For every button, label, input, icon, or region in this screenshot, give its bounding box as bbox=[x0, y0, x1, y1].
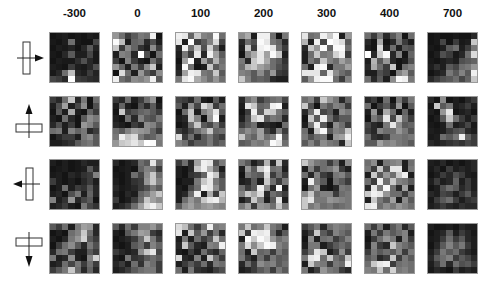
heatmap-row1-col-100 bbox=[176, 33, 225, 82]
heatmap-cell bbox=[156, 76, 162, 82]
heatmap-cell bbox=[408, 140, 414, 146]
heatmap-cell bbox=[345, 267, 351, 273]
heatmap-row2-col-400 bbox=[365, 97, 414, 146]
heatmap-cell bbox=[282, 203, 288, 209]
heatmap-cell bbox=[219, 140, 225, 146]
heatmap-cell bbox=[219, 76, 225, 82]
heatmap-cell bbox=[471, 76, 477, 82]
heatmap-row2-col-700 bbox=[428, 97, 477, 146]
heatmap-row4-col-400 bbox=[365, 224, 414, 273]
bar-arrow-down-icon bbox=[14, 229, 44, 269]
column-label-700: 700 bbox=[428, 7, 477, 19]
heatmap-row4-col-minus300 bbox=[50, 224, 99, 273]
heatmap-row2-col-minus300 bbox=[50, 97, 99, 146]
heatmap-cell bbox=[93, 267, 99, 273]
heatmap-cell bbox=[156, 267, 162, 273]
heatmap-cell bbox=[93, 140, 99, 146]
bar-arrow-up-icon bbox=[14, 102, 44, 142]
heatmap-cell bbox=[471, 203, 477, 209]
heatmap-row1-col-minus300 bbox=[50, 33, 99, 82]
heatmap-cell bbox=[471, 140, 477, 146]
heatmap-cell bbox=[156, 140, 162, 146]
heatmap-row1-col-700 bbox=[428, 33, 477, 82]
heatmap-row2-col-200 bbox=[239, 97, 288, 146]
heatmap-row3-col-minus300 bbox=[50, 160, 99, 209]
heatmap-cell bbox=[282, 140, 288, 146]
heatmap-cell bbox=[408, 76, 414, 82]
column-label-200: 200 bbox=[239, 7, 288, 19]
heatmap-cell bbox=[282, 76, 288, 82]
heatmap-row1-col-0 bbox=[113, 33, 162, 82]
column-label-100: 100 bbox=[176, 7, 225, 19]
column-label-300: 300 bbox=[302, 7, 351, 19]
heatmap-row2-col-0 bbox=[113, 97, 162, 146]
heatmap-row1-col-400 bbox=[365, 33, 414, 82]
heatmap-row2-col-300 bbox=[302, 97, 351, 146]
heatmap-cell bbox=[93, 203, 99, 209]
heatmap-row4-col-300 bbox=[302, 224, 351, 273]
heatmap-cell bbox=[93, 76, 99, 82]
heatmap-cell bbox=[219, 267, 225, 273]
heatmap-row1-col-200 bbox=[239, 33, 288, 82]
column-label-0: 0 bbox=[113, 7, 162, 19]
heatmap-cell bbox=[408, 203, 414, 209]
heatmap-row4-col-100 bbox=[176, 224, 225, 273]
heatmap-row3-col-100 bbox=[176, 160, 225, 209]
heatmap-row3-col-200 bbox=[239, 160, 288, 209]
heatmap-row4-col-0 bbox=[113, 224, 162, 273]
heatmap-row3-col-400 bbox=[365, 160, 414, 209]
heatmap-cell bbox=[471, 267, 477, 273]
heatmap-row1-col-300 bbox=[302, 33, 351, 82]
heatmap-row2-col-100 bbox=[176, 97, 225, 146]
column-label-400: 400 bbox=[365, 7, 414, 19]
heatmap-cell bbox=[345, 76, 351, 82]
heatmap-cell bbox=[282, 267, 288, 273]
column-label-minus-300: -300 bbox=[50, 7, 99, 19]
heatmap-cell bbox=[345, 203, 351, 209]
heatmap-row3-col-300 bbox=[302, 160, 351, 209]
heatmap-cell bbox=[408, 267, 414, 273]
heatmap-cell bbox=[156, 203, 162, 209]
heatmap-row3-col-0 bbox=[113, 160, 162, 209]
heatmap-cell bbox=[345, 140, 351, 146]
heatmap-row4-col-200 bbox=[239, 224, 288, 273]
heatmap-row3-col-700 bbox=[428, 160, 477, 209]
heatmap-row4-col-700 bbox=[428, 224, 477, 273]
bar-arrow-left-icon bbox=[12, 164, 42, 204]
bar-arrow-right-icon bbox=[14, 38, 44, 78]
heatmap-cell bbox=[219, 203, 225, 209]
